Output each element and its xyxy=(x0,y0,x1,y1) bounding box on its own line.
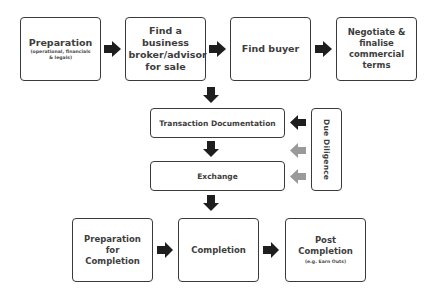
arrow-down-icon xyxy=(203,141,219,157)
step-find-buyer: Find buyer xyxy=(230,17,311,81)
step-find-broker-title: Find a business broker/advisor for sale xyxy=(129,25,203,73)
step-preparation: Preparation (operational, financials & l… xyxy=(20,17,101,81)
step-preparation-for-completion: Preparation for Completion xyxy=(72,218,153,282)
arrow-down-icon xyxy=(203,87,219,103)
step-due-diligence-title: Due Diligence xyxy=(322,119,331,180)
step-completion-title: Completion xyxy=(191,245,246,256)
step-preparation-for-completion-title: Preparation for Completion xyxy=(80,234,146,267)
step-due-diligence: Due Diligence xyxy=(311,108,342,191)
step-post-completion-title: Post Completion xyxy=(296,235,356,257)
step-exchange: Exchange xyxy=(150,161,285,191)
arrow-left-icon xyxy=(290,143,306,158)
step-transaction-documentation: Transaction Documentation xyxy=(150,108,285,138)
arrow-left-icon xyxy=(290,169,306,184)
step-preparation-title: Preparation xyxy=(29,37,93,49)
arrow-right-icon xyxy=(315,41,332,57)
step-preparation-subtitle: (operational, financials & legals) xyxy=(30,49,92,61)
step-completion: Completion xyxy=(178,218,259,282)
arrow-down-icon xyxy=(203,195,219,211)
arrow-right-icon xyxy=(209,41,226,57)
step-post-completion-subtitle: (e.g. Earn Outs) xyxy=(305,259,346,265)
step-exchange-title: Exchange xyxy=(197,171,238,182)
step-find-broker: Find a business broker/advisor for sale xyxy=(125,17,206,81)
step-transaction-documentation-title: Transaction Documentation xyxy=(159,118,275,129)
arrow-right-icon xyxy=(157,242,173,258)
arrow-left-icon xyxy=(290,115,306,130)
step-post-completion: Post Completion (e.g. Earn Outs) xyxy=(285,218,366,282)
step-find-buyer-title: Find buyer xyxy=(242,43,300,55)
step-negotiate-title: Negotiate & finalise commercial terms xyxy=(345,27,409,71)
step-negotiate: Negotiate & finalise commercial terms xyxy=(336,17,417,81)
arrow-right-icon xyxy=(104,41,121,57)
arrow-right-icon xyxy=(263,242,279,258)
